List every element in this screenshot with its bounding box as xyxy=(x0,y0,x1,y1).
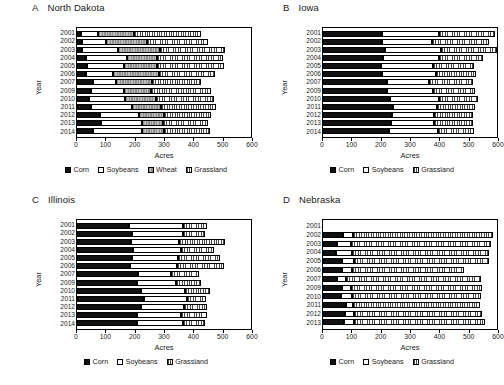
panel-b-title: Iowa xyxy=(298,2,318,13)
bar-segment-wheat xyxy=(124,63,156,69)
bar-row xyxy=(77,96,251,102)
bar-segment-soy xyxy=(385,47,441,53)
bar-row xyxy=(323,63,497,69)
bar-segment-wheat xyxy=(118,47,160,53)
bar-segment-grass xyxy=(183,231,205,237)
bar-segment-corn xyxy=(77,239,131,245)
x-tick-label: 400 xyxy=(434,333,445,340)
bar-segment-soy xyxy=(138,271,171,277)
bar-segment-soy xyxy=(344,319,354,325)
bar-row xyxy=(77,120,251,126)
legend-item-soy: Soybeans xyxy=(363,357,403,366)
bar-segment-soy xyxy=(383,55,439,61)
bar-segment-soy xyxy=(130,263,177,269)
panel-d-y-axis-title: Year xyxy=(280,272,289,287)
bar-segment-grass xyxy=(352,250,489,256)
bar-segment-corn xyxy=(77,312,137,318)
bar-segment-grass xyxy=(354,311,482,317)
bar-segment-soy xyxy=(82,39,106,45)
bar-row xyxy=(77,112,251,118)
bar-row xyxy=(323,267,497,273)
x-tick-label: 200 xyxy=(375,333,386,340)
x-tick-label: 300 xyxy=(404,141,415,148)
bar-segment-soy xyxy=(86,55,127,61)
panel-b-y-tick-label: 2010 xyxy=(295,96,321,102)
x-tick-label: 200 xyxy=(375,141,386,148)
panel-b-y-tick-labels: 2001200220032004200520062007200920102011… xyxy=(295,27,321,138)
bar-segment-soy xyxy=(343,232,352,238)
x-tick-label: 0 xyxy=(320,333,324,340)
legend-label: Corn xyxy=(339,357,355,366)
grass-swatch-icon xyxy=(413,359,419,365)
x-tick-label: 0 xyxy=(320,141,324,148)
bar-segment-corn xyxy=(77,55,86,61)
panel-b-legend: CornSoybeansGrassland xyxy=(286,165,498,174)
bar-segment-soy xyxy=(390,96,439,102)
bar-row xyxy=(323,71,497,77)
panel-d-y-tick-label: 2012 xyxy=(295,311,321,317)
grass-swatch-icon xyxy=(186,167,192,173)
bar-segment-soy xyxy=(141,304,185,310)
panel-b-y-tick-label: 2005 xyxy=(295,63,321,69)
bar-segment-grass xyxy=(353,302,479,308)
bar-segment-soy xyxy=(389,128,437,134)
bar-row xyxy=(323,258,497,264)
bar-row xyxy=(77,55,251,61)
bar-segment-grass xyxy=(183,223,207,229)
bar-segment-soy xyxy=(87,63,124,69)
legend-label: Grassland xyxy=(194,165,227,174)
panel-a-x-axis-title: Acres xyxy=(76,151,252,160)
x-tick-label: 200 xyxy=(129,333,140,340)
bar-row xyxy=(323,276,497,282)
panel-a-y-tick-label: 2014 xyxy=(49,129,75,135)
panel-a-letter: A xyxy=(32,2,38,13)
bar-segment-corn xyxy=(323,55,383,61)
bar-segment-soy xyxy=(341,293,352,299)
bar-segment-corn xyxy=(77,88,91,94)
panel-b-y-tick-label: 2004 xyxy=(295,55,321,61)
soy-swatch-icon xyxy=(363,167,369,173)
panel-c-illinois: C Illinois Year 200120022003200420052006… xyxy=(0,192,251,385)
x-tick-label: 100 xyxy=(346,141,357,148)
x-tick-label: 100 xyxy=(346,333,357,340)
panel-c-y-tick-label: 2003 xyxy=(49,239,75,245)
panel-a-y-axis-title: Year xyxy=(34,80,43,95)
bar-segment-corn xyxy=(77,231,132,237)
bar-segment-soy xyxy=(382,39,433,45)
bar-segment-corn xyxy=(77,271,138,277)
bar-segment-grass xyxy=(181,247,213,253)
bar-segment-soy xyxy=(137,280,176,286)
panel-a-header: A North Dakota xyxy=(32,2,105,13)
panel-c-x-axis: 0100200300400500600 xyxy=(76,330,252,344)
panel-a-north-dakota: A North Dakota Year 20012002200320042005… xyxy=(0,0,251,192)
bar-segment-soy xyxy=(346,302,354,308)
bar-segment-corn xyxy=(323,232,343,238)
bar-segment-grass xyxy=(157,63,225,69)
bar-segment-grass xyxy=(164,128,210,134)
legend-item-soy: Soybeans xyxy=(98,165,138,174)
bar-segment-grass xyxy=(164,112,211,118)
bar-row xyxy=(77,247,251,253)
bar-segment-corn xyxy=(323,302,346,308)
bar-segment-grass xyxy=(147,39,208,45)
bar-segment-corn xyxy=(77,63,87,69)
bar-segment-soy xyxy=(91,88,124,94)
bar-segment-grass xyxy=(134,31,201,37)
bar-segment-corn xyxy=(77,112,100,118)
panel-d-x-axis-title: Acres xyxy=(322,343,498,352)
panel-c-header: C Illinois xyxy=(32,194,75,205)
bar-segment-soy xyxy=(144,296,187,302)
legend-label: Wheat xyxy=(156,165,177,174)
bar-segment-soy xyxy=(387,88,434,94)
panel-b-plot-area xyxy=(322,27,498,138)
bar-segment-corn xyxy=(77,128,93,134)
bar-segment-corn xyxy=(323,276,337,282)
bar-row xyxy=(77,271,251,277)
bar-segment-soy xyxy=(382,31,439,37)
bar-segment-grass xyxy=(436,71,476,77)
panel-c-y-tick-label: 2001 xyxy=(49,222,75,228)
bar-row xyxy=(77,71,251,77)
legend-label: Soybeans xyxy=(372,357,404,366)
bar-row xyxy=(323,302,497,308)
bar-row xyxy=(77,239,251,245)
